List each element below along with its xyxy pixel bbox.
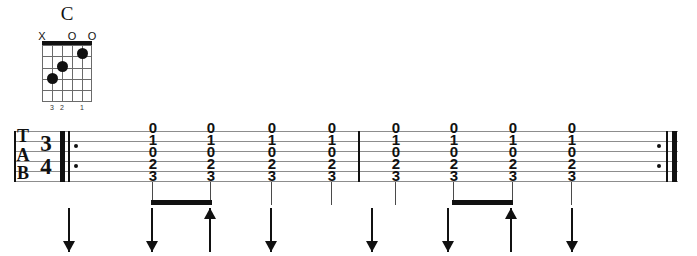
arrow-down-icon [63,241,75,252]
time-signature-unit: 4 [40,155,52,178]
tab-clef-letter-a: A [17,147,30,164]
end-repeat-thin-bar [666,131,668,182]
strum-arrow-5-down [365,208,379,252]
arrow-down-icon [442,241,454,252]
fret-m2-1-s5: 3 [389,170,403,181]
beam-m1-notes-2-3 [151,200,212,205]
arrow-down-icon [366,241,378,252]
start-repeat-dot-lower [74,164,78,168]
arrow-up-icon [204,208,216,219]
time-signature-beats: 3 [40,132,52,155]
strum-arrow-8-down [565,208,579,252]
tab-sheet: C X O O [0,0,697,256]
fret-m2-4-s5: 3 [565,170,579,181]
fret-m2-3-s5: 3 [506,170,520,181]
arrow-up-icon [505,208,517,219]
arrow-down-icon [265,241,277,252]
fret-m1-3-s5: 3 [265,170,279,181]
start-repeat-dot-upper [74,144,78,148]
start-repeat-thin-bar [68,131,70,182]
fret-m2-2-s5: 3 [447,170,461,181]
strum-arrow-1-down [62,208,76,252]
fret-m1-1-s5: 3 [146,170,160,181]
fret-m1-4-s5: 3 [325,170,339,181]
tab-clef: T A B [12,128,34,182]
strum-arrow-7-up [504,208,518,252]
end-repeat-thick-bar [672,131,677,182]
start-repeat-thick-bar [60,131,65,182]
end-repeat-dot-lower [657,164,661,168]
fret-m1-2-s5: 3 [204,170,218,181]
staff-line-6 [14,181,678,182]
note-stem-m1-3 [271,182,272,205]
beam-m2-notes-2-3 [452,200,513,205]
strum-arrow-3-up [203,208,217,252]
arrow-down-icon [566,241,578,252]
note-stem-m2-1 [395,182,396,205]
tab-clef-letter-b: B [17,165,29,182]
strum-arrow-2-down [145,208,159,252]
time-signature: 3 4 [38,129,54,181]
measure-barline [358,131,360,182]
end-repeat-dot-upper [657,144,661,148]
tab-clef-letter-t: T [17,128,29,145]
strum-arrow-6-down [441,208,455,252]
note-stem-m2-4 [571,182,572,205]
strum-arrow-4-down [264,208,278,252]
note-stem-m1-4 [331,182,332,205]
arrow-down-icon [146,241,158,252]
tablature-staff: T A B 3 4 0 1 0 2 3 0 1 0 [0,0,697,256]
